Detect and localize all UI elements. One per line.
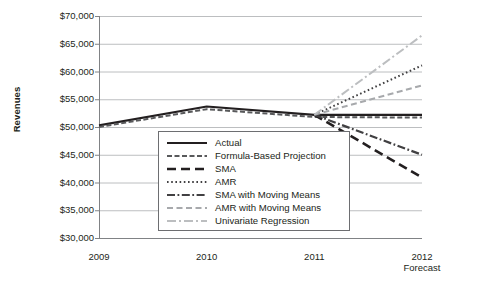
x-axis-tick-sublabel: Forecast	[377, 262, 467, 273]
legend-item[interactable]: Formula-Based Projection	[166, 149, 342, 162]
x-axis-tick-label: 2011	[269, 251, 359, 262]
legend-item[interactable]: Actual	[166, 136, 342, 149]
dotted-gray-line-icon	[166, 176, 208, 188]
x-axis-tick-label: 2009	[54, 251, 144, 262]
legend-item[interactable]: Univariate Regression	[166, 214, 342, 227]
legend-item[interactable]: AMR	[166, 175, 342, 188]
revenue-forecast-chart: Revenues $70,000$65,000$60,000$55,000$50…	[0, 0, 480, 284]
chart-legend: ActualFormula-Based ProjectionSMAAMRSMA …	[158, 131, 350, 231]
legend-item[interactable]: AMR with Moving Means	[166, 201, 342, 214]
long-dash-black-line-icon	[166, 163, 208, 175]
x-axis-tick-label: 2012Forecast	[377, 251, 467, 273]
legend-item-label: SMA with Moving Means	[215, 189, 320, 201]
solid-black-line-icon	[166, 137, 208, 149]
dash-dot-gray-line-icon	[166, 189, 208, 201]
dash-dot-light-gray-line-icon	[166, 215, 208, 227]
legend-item-label: SMA	[215, 163, 236, 175]
legend-item-label: Formula-Based Projection	[215, 150, 326, 162]
legend-item-label: Actual	[215, 137, 242, 149]
legend-item-label: Univariate Regression	[215, 215, 309, 227]
dashed-gray-line-icon	[166, 150, 208, 162]
dashed-light-gray-line-icon	[166, 202, 208, 214]
legend-item[interactable]: SMA	[166, 162, 342, 175]
legend-item-label: AMR	[215, 176, 236, 188]
legend-item[interactable]: SMA with Moving Means	[166, 188, 342, 201]
x-axis-tick-label: 2010	[162, 251, 252, 262]
legend-item-label: AMR with Moving Means	[215, 202, 321, 214]
